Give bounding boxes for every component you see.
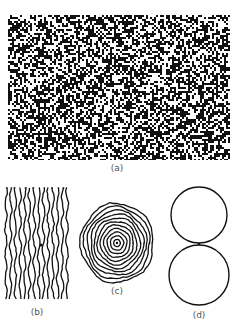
stripe-line (9, 188, 12, 299)
panel-a-label: (a) (102, 163, 132, 173)
contact-point (198, 243, 201, 246)
stripe-line (42, 188, 45, 299)
center-dot (40, 244, 43, 247)
panel-d-label: (d) (184, 310, 214, 320)
stripe-line (33, 188, 36, 299)
upper-circle (171, 187, 227, 243)
stripe-line (5, 188, 8, 299)
stripe-line (14, 188, 17, 299)
ring-center-dot (116, 242, 118, 244)
stripe-line (56, 188, 59, 299)
panel-d-circles (168, 185, 230, 307)
stripe-line (47, 188, 50, 299)
panel-b-label: (b) (22, 307, 52, 317)
wavy-stripes-image (0, 185, 80, 303)
speckle-noise-image (8, 15, 230, 160)
stripe-line (51, 188, 54, 299)
lower-circle (169, 245, 229, 305)
stripe-line (28, 188, 31, 299)
stripe-line (23, 188, 26, 299)
concentric-rings-image (77, 200, 157, 286)
panel-c-label: (c) (102, 286, 132, 296)
stripe-line (37, 188, 40, 299)
stripe-line (19, 188, 22, 299)
two-circles-image (168, 185, 230, 307)
stripe-line (66, 188, 69, 299)
panel-c-rings (77, 200, 157, 286)
panel-b-stripes (0, 185, 80, 303)
stripe-line (61, 188, 64, 299)
panel-a-noise (8, 15, 230, 160)
